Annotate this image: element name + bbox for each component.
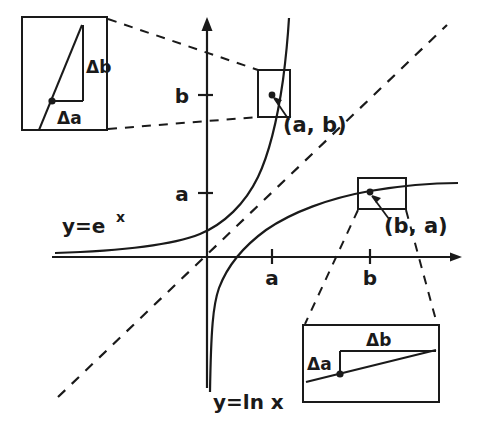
exponential-label-group: y=e x — [62, 209, 125, 238]
y-axis-arrowhead — [202, 17, 213, 31]
inset-bottom-right: Δa Δb — [303, 325, 439, 402]
inset-br-delta-a-label: Δa — [307, 354, 332, 374]
x-tick-label-a: a — [265, 266, 279, 290]
inset-br-delta-b-label: Δb — [366, 330, 391, 350]
point-ba-dot — [367, 189, 374, 196]
exponential-label: y=e — [62, 214, 105, 238]
connector-tl-upper — [108, 19, 258, 70]
point-ba-label: (b, a) — [384, 214, 448, 238]
inset-tl-delta-a-label: Δa — [57, 108, 82, 128]
exponential-exponent: x — [116, 209, 125, 225]
x-tick-label-b: b — [363, 266, 377, 290]
y-tick-label-b: b — [175, 84, 189, 108]
x-axis-arrowhead — [450, 253, 462, 262]
inset-tl-delta-b-label: Δb — [86, 57, 111, 77]
magnify-box-ba — [358, 178, 406, 209]
connector-tl-lower — [108, 117, 258, 129]
connector-br-left — [305, 210, 358, 324]
inset-tl-point-dot — [48, 97, 55, 104]
y-tick-label-a: a — [175, 182, 189, 206]
figure-root: b a a b (a, b) (b, a) y=e x y=ln x — [0, 0, 479, 429]
logarithm-label: y=ln x — [213, 390, 284, 414]
point-ab-label: (a, b) — [283, 113, 347, 137]
diagram-canvas: b a a b (a, b) (b, a) y=e x y=ln x — [0, 0, 479, 429]
inset-top-left: Δa Δb — [22, 17, 111, 130]
inset-br-point-dot — [336, 370, 343, 377]
